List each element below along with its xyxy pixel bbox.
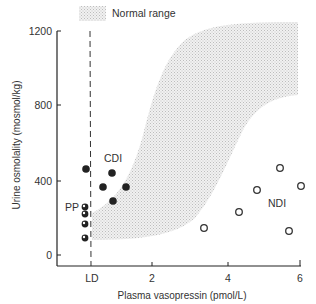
y-tick-label-1200: 1200 [29,25,53,37]
data-point-cdi [82,165,90,173]
y-tick-label-400: 400 [34,175,52,187]
x-tick-label-4: 4 [225,272,231,284]
ld-reference-line [90,31,91,266]
data-point-ndi [298,183,305,190]
series-pp [82,204,89,242]
data-point-cdi [99,183,107,191]
y-tick-label-0: 0 [46,249,52,261]
data-point-ndi [277,165,284,172]
data-point-cdi [108,169,116,177]
data-point-ndi [286,228,293,235]
data-point-pp [82,204,89,211]
data-point-pp [82,235,89,242]
x-tick-label-ld: LD [85,272,99,284]
label-ndi: NDI [268,197,286,209]
label-cdi: CDI [104,152,122,164]
data-point-ndi [236,209,243,216]
y-axis-title: Urine osmolality (mosmol/kg) [11,81,22,210]
pp-highlight [83,212,85,214]
y-tick-label-800: 800 [34,99,52,111]
label-pp: PP [65,201,79,213]
pp-highlight [83,205,85,207]
chart-container: Normal range 1200 800 400 0 LD 2 4 6 Pla… [0,0,316,304]
data-point-cdi [109,197,117,205]
data-point-ndi [201,225,208,232]
legend-label-normal-range: Normal range [112,7,176,19]
data-point-pp [82,221,89,228]
x-tick-label-2: 2 [149,272,155,284]
data-point-pp [82,211,89,218]
data-point-ndi [254,187,261,194]
pp-highlight [83,222,85,224]
pp-highlight [83,236,85,238]
data-point-cdi [122,183,130,191]
x-axis-title: Plasma vasopressin (pmol/L) [118,290,247,301]
legend-swatch-normal-range [79,6,106,21]
scatter-chart: Normal range 1200 800 400 0 LD 2 4 6 Pla… [0,0,316,304]
x-tick-label-6: 6 [297,272,303,284]
